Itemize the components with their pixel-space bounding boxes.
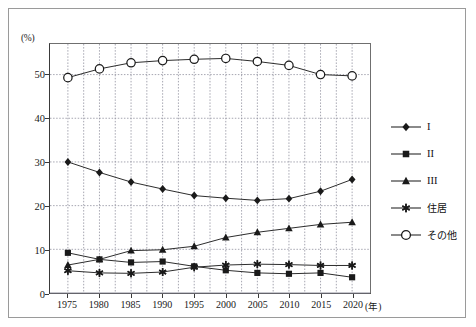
y-tick-mark [45, 74, 49, 75]
data-point-circle-open [95, 65, 103, 73]
data-point-diamond [349, 175, 356, 183]
series-5 [64, 54, 357, 82]
figure-frame: (%) 010203040501975198019851990199520002… [8, 8, 466, 318]
chart-legend: IIIIII住居その他 [391, 113, 467, 248]
legend-marker-square-icon [391, 147, 421, 161]
data-point-circle-open [64, 73, 72, 81]
data-point-circle-open [285, 61, 293, 69]
y-axis-unit-label: (%) [21, 33, 34, 43]
data-point-square [65, 250, 71, 256]
x-tick-label: 2020 [343, 299, 363, 310]
x-tick-label: 2005 [248, 299, 268, 310]
y-tick-mark [45, 250, 49, 251]
y-tick-label: 30 [15, 156, 45, 167]
data-point-square [160, 258, 166, 264]
legend-marker-triangle-icon [391, 174, 421, 188]
x-tick-mark [194, 294, 195, 298]
x-tick-mark [67, 294, 68, 298]
legend-label: III [427, 175, 438, 186]
x-tick-mark [162, 294, 163, 298]
data-point-diamond [128, 178, 135, 186]
data-point-diamond [222, 194, 229, 202]
y-tick-mark [45, 118, 49, 119]
x-tick-label: 1985 [121, 299, 141, 310]
legend-marker-circle-open-icon [391, 228, 421, 242]
series-line [68, 162, 352, 200]
x-tick-label: 2015 [311, 299, 331, 310]
data-point-circle-open [402, 230, 411, 239]
data-point-square [349, 274, 355, 280]
data-point-square [286, 271, 292, 277]
data-point-circle-open [316, 70, 324, 78]
data-point-circle-open [127, 59, 135, 67]
data-point-diamond [65, 158, 72, 166]
x-tick-mark [99, 294, 100, 298]
series-line [68, 222, 352, 265]
x-tick-label: 1990 [152, 299, 172, 310]
data-point-square [403, 150, 410, 157]
x-axis-unit-label: (年) [365, 299, 381, 313]
data-point-diamond [402, 122, 409, 130]
x-tick-mark [353, 294, 354, 298]
y-tick-label: 20 [15, 200, 45, 211]
legend-label: II [427, 148, 434, 159]
x-tick-mark [131, 294, 132, 298]
legend-label: 住居 [427, 200, 447, 215]
data-point-diamond [286, 195, 293, 203]
x-tick-label: 2010 [279, 299, 299, 310]
legend-item-1[interactable]: I [391, 113, 467, 140]
chart-page: (%) 010203040501975198019851990199520002… [0, 0, 476, 327]
legend-item-5[interactable]: その他 [391, 221, 467, 248]
data-point-square [317, 270, 323, 276]
data-point-circle-open [190, 55, 198, 63]
series-layer [50, 44, 370, 293]
y-tick-label: 10 [15, 244, 45, 255]
y-tick-mark [45, 206, 49, 207]
legend-marker-diamond-icon [391, 120, 421, 134]
y-tick-mark [45, 294, 49, 295]
data-point-circle-open [158, 56, 166, 64]
legend-item-4[interactable]: 住居 [391, 194, 467, 221]
data-point-triangle [348, 218, 356, 225]
y-tick-label: 40 [15, 112, 45, 123]
series-line [68, 58, 352, 77]
data-point-square [128, 259, 134, 265]
data-point-diamond [96, 168, 103, 176]
legend-marker-asterisk-icon [391, 201, 421, 215]
data-point-circle-open [222, 54, 230, 62]
y-tick-mark [45, 162, 49, 163]
series-1 [65, 158, 356, 204]
plot-area [49, 43, 371, 294]
legend-label: その他 [427, 227, 457, 242]
legend-label: I [427, 121, 431, 132]
x-tick-mark [226, 294, 227, 298]
data-point-square [254, 270, 260, 276]
data-point-diamond [254, 196, 261, 204]
x-tick-label: 1980 [89, 299, 109, 310]
legend-item-2[interactable]: II [391, 140, 467, 167]
y-tick-label: 0 [15, 289, 45, 300]
x-tick-label: 2000 [216, 299, 236, 310]
x-tick-label: 1995 [184, 299, 204, 310]
data-point-diamond [317, 187, 324, 195]
y-tick-label: 50 [15, 68, 45, 79]
x-tick-mark [321, 294, 322, 298]
data-point-circle-open [348, 72, 356, 80]
data-point-circle-open [253, 57, 261, 65]
x-tick-mark [258, 294, 259, 298]
legend-item-3[interactable]: III [391, 167, 467, 194]
data-point-diamond [159, 185, 166, 193]
x-tick-label: 1975 [57, 299, 77, 310]
data-point-diamond [191, 192, 198, 200]
x-tick-mark [289, 294, 290, 298]
